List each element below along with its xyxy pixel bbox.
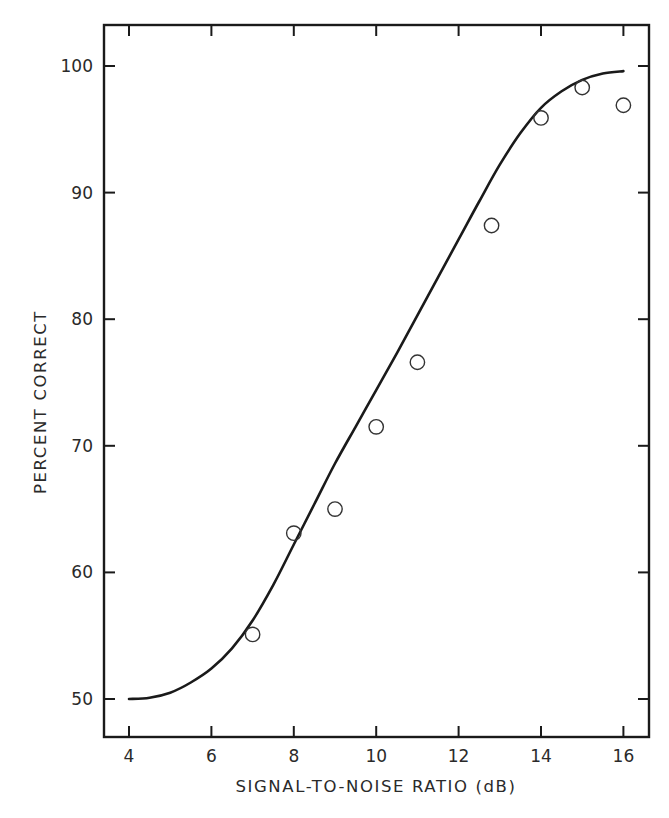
chart: 468101214165060708090100 SIGNAL-TO-NOISE…: [0, 0, 669, 818]
fitted-curve: [129, 71, 623, 699]
x-tick-label: 10: [365, 746, 387, 766]
y-tick-label: 70: [71, 436, 93, 456]
x-tick-label: 4: [124, 746, 135, 766]
y-tick-label: 50: [71, 689, 93, 709]
x-axis-title: SIGNAL-TO-NOISE RATIO (dB): [235, 777, 516, 796]
data-point-marker: [287, 526, 301, 540]
x-tick-label: 12: [448, 746, 470, 766]
x-tick-label: 8: [288, 746, 299, 766]
tick-labels: 468101214165060708090100: [61, 56, 635, 766]
plot-border: [104, 25, 649, 737]
data-point-marker: [616, 98, 630, 112]
data-point-marker: [534, 111, 548, 125]
data-point-marker: [369, 420, 383, 434]
data-point-marker: [575, 80, 589, 94]
x-tick-label: 14: [530, 746, 552, 766]
data-point-marker: [328, 502, 342, 516]
y-tick-label: 60: [71, 562, 93, 582]
y-tick-label: 80: [71, 309, 93, 329]
data-point-marker: [484, 218, 498, 232]
plot-frame: [104, 25, 649, 737]
data-markers: [245, 80, 630, 641]
axis-ticks: [104, 25, 649, 737]
y-axis-title: PERCENT CORRECT: [31, 310, 50, 494]
data-point-marker: [410, 355, 424, 369]
y-tick-label: 90: [71, 183, 93, 203]
x-tick-label: 16: [613, 746, 635, 766]
data-point-marker: [245, 627, 259, 641]
y-tick-label: 100: [61, 56, 93, 76]
x-tick-label: 6: [206, 746, 217, 766]
